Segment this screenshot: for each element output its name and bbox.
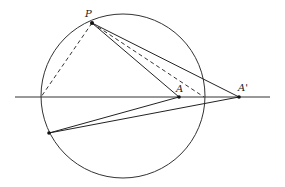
label-A-prime: A' <box>237 82 248 93</box>
segment-Q-A-prime <box>49 97 239 133</box>
dashed-segment-P-right <box>92 23 204 97</box>
geometry-diagram: P A A' <box>0 0 285 187</box>
point-A-prime <box>237 95 241 99</box>
segment-Q-A <box>49 97 179 133</box>
point-Q <box>47 131 51 135</box>
label-A: A <box>175 83 183 94</box>
dashed-segment-P-left <box>41 23 92 97</box>
point-A <box>177 95 181 99</box>
label-P: P <box>84 8 92 19</box>
point-P <box>90 21 94 25</box>
